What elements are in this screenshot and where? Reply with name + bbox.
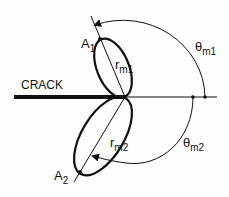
- point-a1: [98, 37, 102, 41]
- label-theta-m1: θm1: [195, 38, 216, 54]
- label-a1: A1: [81, 35, 95, 51]
- diagram-graphics: [0, 0, 229, 197]
- label-theta-m2: θm2: [183, 134, 204, 150]
- label-rm2: rm2: [110, 134, 128, 150]
- label-a2: A2: [54, 167, 68, 183]
- point-a2: [78, 170, 82, 174]
- crack-label: CRACK: [21, 79, 63, 91]
- label-rm1: rm1: [115, 56, 133, 72]
- theta-m1-arc: [95, 20, 205, 97]
- theta-m2-arc: [93, 97, 193, 164]
- lower-lobe: [62, 87, 143, 184]
- crack-polar-diagram: CRACK A1 A2 rm1 rm2 θm1 θm2: [0, 0, 229, 197]
